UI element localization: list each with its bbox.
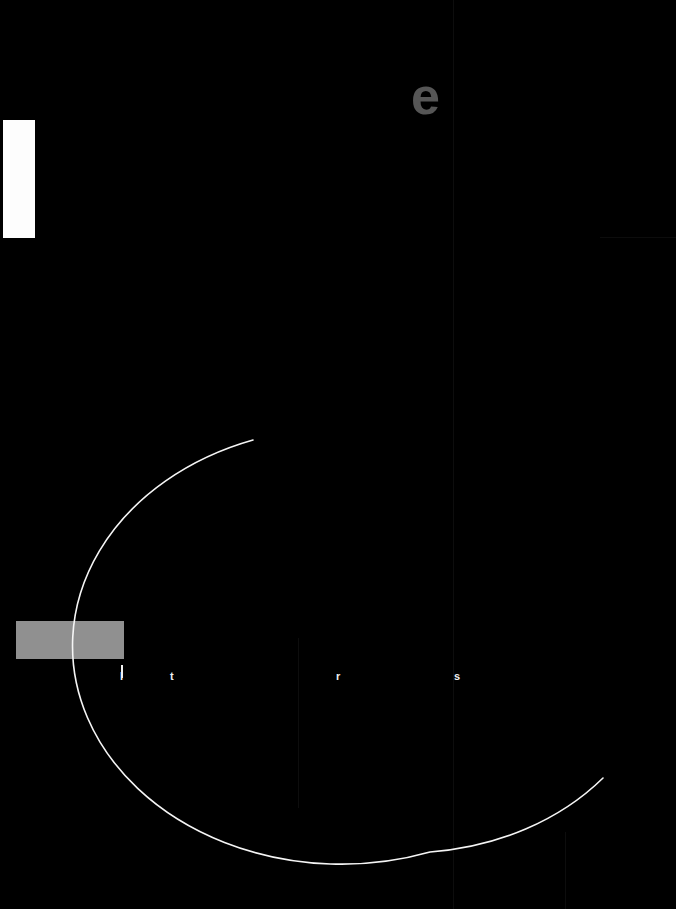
guide-v-453 [453,0,454,909]
mini-letter-1: l [120,671,123,682]
grey-rectangle [16,621,124,659]
guide-h-237 [600,237,676,238]
mini-letter-3: r [336,671,340,682]
large-letter-glyph: e [411,70,440,122]
white-rectangle [3,120,35,238]
guide-v-565 [565,832,566,909]
guide-v-298 [298,638,299,808]
mini-letter-2: t [170,671,174,682]
arc-layer [0,0,676,909]
canvas-root: e l t r s [0,0,676,909]
large-white-arc [73,440,603,864]
mini-letter-4: s [454,671,460,682]
